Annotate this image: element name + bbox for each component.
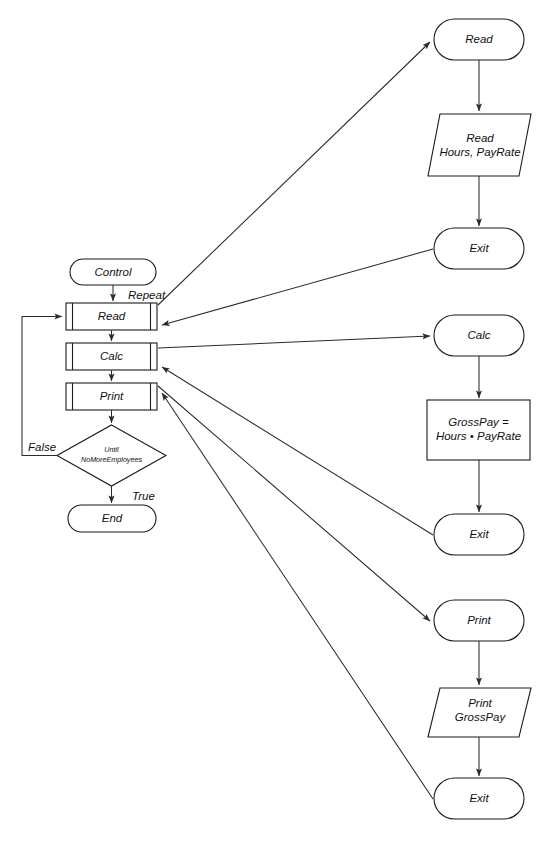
print-entry-node[interactable]: Print — [434, 600, 524, 641]
flowchart-svg: Control Repeat Read Calc Print — [0, 0, 550, 841]
control-call-calc-node[interactable]: Calc — [66, 343, 157, 370]
read-module: Read Read Hours, PayRate Exit — [428, 19, 531, 269]
print-io-label-line2: GrossPay — [455, 711, 507, 723]
print-entry-label: Print — [467, 614, 491, 626]
connector-return-read — [162, 249, 433, 325]
edge-label-true: True — [132, 490, 155, 502]
calc-process-label-line2: Hours • PayRate — [436, 430, 521, 442]
print-module: Print Print GrossPay Exit — [428, 600, 531, 819]
calc-exit-node[interactable]: Exit — [434, 514, 524, 555]
connector-call-out-calc — [158, 336, 430, 348]
read-exit-label: Exit — [469, 242, 489, 254]
read-io-label-line2: Hours, PayRate — [439, 146, 520, 158]
connector-loop-back-false — [22, 317, 62, 456]
calc-process-label-line1: GrossPay = — [448, 416, 509, 428]
edge-label-false: False — [28, 441, 56, 453]
edge-label-repeat: Repeat — [128, 289, 166, 301]
print-exit-label: Exit — [469, 792, 489, 804]
control-call-calc-label: Calc — [100, 350, 123, 362]
control-call-print-label: Print — [100, 390, 124, 402]
control-module: Control Repeat Read Calc Print — [22, 259, 166, 532]
control-end-node[interactable]: End — [68, 505, 156, 532]
control-decision-node[interactable]: Until NoMoreEmployees — [57, 425, 166, 486]
connector-call-out-print — [158, 386, 430, 621]
flowchart-canvas: Control Repeat Read Calc Print — [0, 0, 550, 841]
read-entry-label: Read — [465, 33, 493, 45]
read-io-node[interactable]: Read Hours, PayRate — [428, 114, 531, 176]
calc-process-node[interactable]: GrossPay = Hours • PayRate — [427, 400, 530, 460]
control-call-read-label: Read — [98, 310, 126, 322]
control-decision-label-line1: Until — [104, 445, 119, 454]
calc-entry-label: Calc — [467, 329, 490, 341]
calc-entry-node[interactable]: Calc — [434, 315, 524, 356]
print-io-label-line1: Print — [468, 697, 492, 709]
calc-module: Calc GrossPay = Hours • PayRate Exit — [427, 315, 530, 555]
control-decision-label-line2: NoMoreEmployees — [81, 455, 143, 464]
control-start-node[interactable]: Control — [70, 259, 156, 285]
print-io-node[interactable]: Print GrossPay — [428, 688, 531, 737]
read-entry-node[interactable]: Read — [434, 19, 524, 60]
read-io-label-line1: Read — [466, 132, 494, 144]
connector-return-calc — [162, 367, 433, 535]
module-call-connectors — [158, 42, 433, 799]
control-end-label: End — [102, 512, 123, 524]
control-call-print-node[interactable]: Print — [66, 383, 157, 410]
calc-exit-label: Exit — [469, 528, 489, 540]
read-exit-node[interactable]: Exit — [434, 228, 524, 269]
connector-return-print — [162, 393, 433, 799]
control-start-label: Control — [94, 266, 132, 278]
control-call-read-node[interactable]: Read — [66, 303, 157, 330]
connector-call-out-read — [158, 42, 430, 305]
print-exit-node[interactable]: Exit — [434, 778, 524, 819]
